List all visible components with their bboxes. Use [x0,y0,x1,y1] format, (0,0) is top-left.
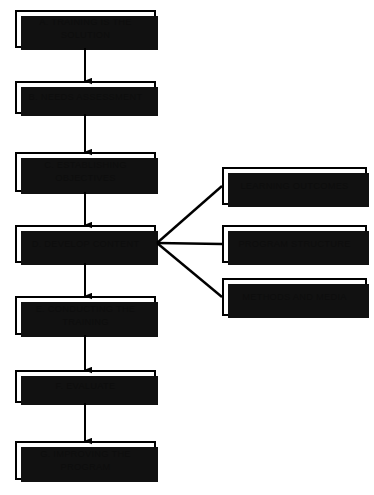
branch-box-program-structure[interactable]: PROGRAM STRUCTURE [222,225,367,263]
process-box-b-label: B. NEEDS ASSESSMENT [25,91,147,104]
process-box-c-label: C. ESTABLISHING OBJECTIVES [40,159,131,185]
process-box-a-label: A. TRAINING IS THE SOLUTION [35,16,136,42]
process-box-d[interactable]: D. DEVELOP CONTENT [15,225,156,263]
process-box-e[interactable]: E. CONDUCTING THE TRAINING [15,296,156,335]
process-box-g-label: G. IMPROVING THE PROGRAM [36,448,135,474]
process-box-b[interactable]: B. NEEDS ASSESSMENT [15,81,156,114]
process-box-f-label: F. EVALUATE [52,380,120,393]
branch-box-program-structure-label: PROGRAM STRUCTURE [234,238,354,251]
process-box-g[interactable]: G. IMPROVING THE PROGRAM [15,441,156,480]
branch-box-methods-and-media-label: METHODS AND MEDIA [238,291,350,304]
branch-box-learning-outcomes[interactable]: LEARNING OUTCOMES [222,167,367,205]
branch-box-learning-outcomes-label: LEARNING OUTCOMES [236,180,352,193]
process-box-d-label: D. DEVELOP CONTENT [28,238,144,251]
process-box-f[interactable]: F. EVALUATE [15,370,156,403]
branch-box-methods-and-media[interactable]: METHODS AND MEDIA [222,278,367,316]
process-box-e-label: E. CONDUCTING THE TRAINING [32,303,140,329]
process-box-a[interactable]: A. TRAINING IS THE SOLUTION [15,10,156,48]
process-box-c[interactable]: C. ESTABLISHING OBJECTIVES [15,152,156,192]
